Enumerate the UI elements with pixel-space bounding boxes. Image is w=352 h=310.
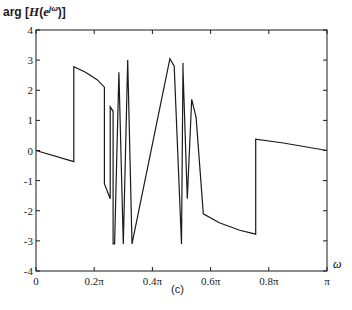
x-tick-label: 0.6π: [201, 275, 221, 287]
y-tick-label: -2: [24, 205, 33, 217]
x-tick-label: 0.2π: [85, 275, 105, 287]
y-tick-label: -3: [24, 235, 34, 247]
y-tick-label: -4: [24, 265, 34, 277]
x-tick-label: π: [324, 275, 330, 287]
y-tick-label: 1: [28, 114, 34, 126]
figure-caption: (c): [171, 283, 184, 295]
x-tick-label: 0.4π: [143, 275, 163, 287]
y-tick-label: 4: [28, 24, 34, 36]
phase-chart: 00.2π0.4π0.6π0.8ππ43210-1-2-3-4 ω: [0, 0, 352, 310]
x-tick-label: 0: [33, 275, 39, 287]
phase-curve: [36, 59, 327, 244]
x-tick-label: 0.8π: [259, 275, 279, 287]
y-tick-label: 3: [28, 54, 34, 66]
axis-tick-labels: 00.2π0.4π0.6π0.8ππ43210-1-2-3-4: [24, 24, 330, 287]
x-axis-label: ω: [333, 257, 341, 271]
y-tick-label: -1: [24, 175, 33, 187]
y-tick-label: 0: [28, 145, 34, 157]
y-tick-label: 2: [28, 84, 34, 96]
